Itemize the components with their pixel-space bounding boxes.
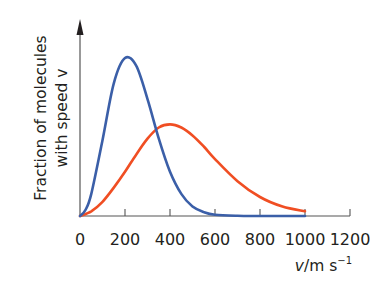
y-axis-title-line-2: with speed v [53, 69, 71, 168]
x-tick-label: 400 [155, 230, 186, 249]
x-tick-label: 0 [75, 230, 85, 249]
x-tick-label: 1000 [285, 230, 326, 249]
x-axis-title-exponent: −1 [337, 255, 352, 266]
speed-distribution-chart: Fraction of molecules with speed v 02004… [0, 0, 387, 287]
x-tick-label: 600 [200, 230, 231, 249]
x-tick-label: 1200 [330, 230, 371, 249]
x-tick-label: 200 [110, 230, 141, 249]
x-axis-tick-labels: 020040060080010001200 [75, 230, 370, 249]
y-axis-title-line-1: Fraction of molecules [32, 35, 50, 200]
distribution-curves [80, 57, 305, 216]
x-axis-title-unit: /m s [304, 257, 337, 275]
curve-high-temperature [80, 124, 305, 216]
x-axis-title: v/m s−1 [295, 255, 352, 275]
x-tick-label: 800 [245, 230, 276, 249]
y-axis-title: Fraction of molecules with speed v [32, 35, 71, 200]
axes [77, 19, 351, 216]
y-axis-arrow-icon [77, 19, 84, 35]
